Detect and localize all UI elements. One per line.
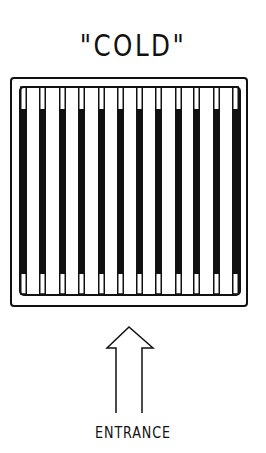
outer-frame — [11, 78, 247, 306]
tube — [155, 87, 162, 294]
cold-room-diagram — [0, 0, 266, 453]
entrance-label: ENTRANCE — [20, 424, 246, 442]
tube — [213, 87, 220, 294]
tube-array — [20, 87, 239, 294]
tube — [193, 87, 200, 294]
inner-frame — [20, 87, 240, 295]
tube — [59, 87, 66, 294]
tube — [98, 87, 105, 294]
tube — [117, 87, 124, 294]
tube — [232, 87, 239, 294]
tube — [136, 87, 143, 294]
tube — [39, 87, 46, 294]
tube — [20, 87, 27, 294]
tube — [78, 87, 85, 294]
tube — [175, 87, 182, 294]
entrance-arrow-icon — [107, 327, 153, 413]
